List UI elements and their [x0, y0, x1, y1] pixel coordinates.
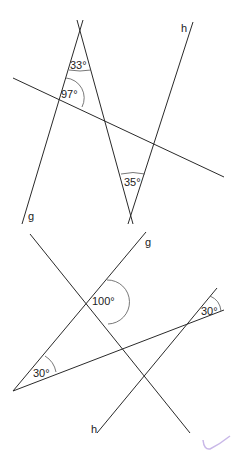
angle-label-35: 35°	[124, 176, 141, 188]
angle-label-33: 33°	[70, 59, 87, 71]
angle-label-97: 97°	[61, 88, 78, 100]
line-diagonal-bottom	[30, 234, 190, 433]
line-label-g-top: g	[28, 210, 34, 222]
angle-arc-35	[121, 173, 145, 175]
angle-label-30-left: 30°	[33, 367, 50, 379]
bottom-figure: 100° 30° 30° g h	[13, 232, 224, 435]
angle-label-100: 100°	[92, 295, 115, 307]
line-label-h-top: h	[181, 22, 187, 34]
check-mark	[203, 436, 230, 449]
line-h-top	[128, 22, 193, 224]
line-label-h-bottom: h	[91, 423, 97, 435]
line-label-g-bottom: g	[145, 236, 151, 248]
angle-label-30-right: 30°	[201, 305, 218, 317]
line-g-top	[22, 20, 83, 224]
line-middle-top	[77, 20, 133, 224]
top-figure: 33° 97° 35° g h	[13, 20, 224, 224]
line-h-bottom	[97, 288, 217, 433]
transversal-top	[13, 78, 224, 177]
geometry-diagram: 33° 97° 35° g h 100° 30° 30° g h	[0, 0, 244, 459]
